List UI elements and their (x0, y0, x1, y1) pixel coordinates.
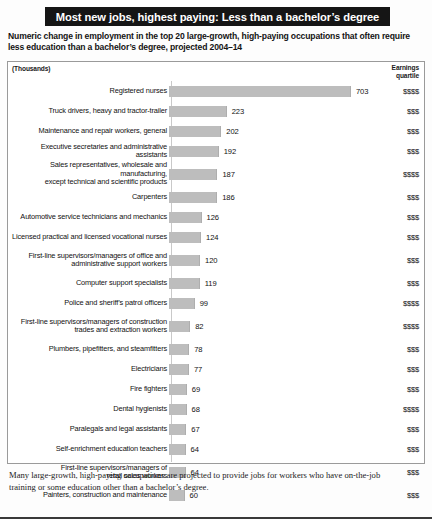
bar-row: Dental hygienists68$$$$ (8, 399, 424, 419)
bar-row: Automotive service technicians and mecha… (8, 207, 424, 227)
page-title: Most new jobs, highest paying: Less than… (56, 11, 379, 23)
bar (169, 321, 190, 332)
bar-row: Sales representatives, wholesale and man… (8, 161, 424, 187)
bar (169, 106, 227, 117)
bar-row: Registered nurses703$$$$ (8, 81, 424, 101)
bar-row-label: Automotive service technicians and mecha… (8, 213, 169, 221)
footnote: Many large-growth, high-paying occupatio… (9, 470, 409, 493)
bar-zone: 67$$$ (169, 419, 424, 439)
bar-row-label: Plumbers, pipefitters, and steamfitters (8, 345, 169, 353)
earnings-quartile-value: $$$ (407, 365, 419, 374)
bar-value-label: 126 (207, 213, 219, 222)
bar-zone: 126$$$ (169, 207, 424, 227)
bar-row-label: Sales representatives, wholesale and man… (8, 161, 169, 186)
bar-zone: 186$$$ (169, 187, 424, 207)
bar-row-label: Police and sheriff’s patrol officers (8, 299, 169, 307)
bar-row-label: First-line supervisors/managers of const… (8, 318, 169, 335)
chart-page: Most new jobs, highest paying: Less than… (0, 0, 432, 519)
earnings-header-line2: quartile (392, 72, 419, 80)
bar-row: Plumbers, pipefitters, and steamfitters7… (8, 339, 424, 359)
bar-row-label: Fire fighters (8, 385, 169, 393)
earnings-quartile-value: $$$ (407, 385, 419, 394)
bar-row: Executive secretaries and administrative… (8, 141, 424, 161)
earnings-quartile-header: Earnings quartile (392, 64, 419, 80)
bar-row-label: Electricians (8, 365, 169, 373)
bar-zone: 119$$$ (169, 273, 424, 293)
bar (169, 364, 189, 375)
bar-row-label: Maintenance and repair workers, general (8, 127, 169, 135)
bar (169, 424, 186, 435)
bar-row: Truck drivers, heavy and tractor-trailer… (8, 101, 424, 121)
bar-value-label: 99 (200, 299, 208, 308)
bar-zone: 64$$$ (169, 439, 424, 459)
chart-panel: (Thousands) Earnings quartile Registered… (7, 61, 425, 464)
bar-value-label: 124 (206, 233, 218, 242)
bar-zone: 77$$$ (169, 359, 424, 379)
bar-row-label: First-line supervisors/managers of offic… (8, 252, 169, 269)
bar-zone: 192$$$ (169, 141, 424, 161)
earnings-quartile-value: $$$ (407, 193, 419, 202)
bar-zone: 68$$$$ (169, 399, 424, 419)
bar-value-label: 186 (222, 193, 234, 202)
bar (169, 344, 189, 355)
units-label: (Thousands) (12, 65, 50, 72)
bar-row-label: Licensed practical and licensed vocation… (8, 233, 169, 241)
earnings-quartile-value: $$$$ (403, 405, 419, 414)
bar-value-label: 192 (224, 147, 236, 156)
bar (169, 232, 201, 243)
bar-value-label: 202 (226, 127, 238, 136)
bar-rows-container: Registered nurses703$$$$Truck drivers, h… (8, 81, 424, 505)
earnings-quartile-value: $$$$ (403, 322, 419, 331)
bar-value-label: 69 (192, 385, 200, 394)
bar-value-label: 82 (195, 322, 203, 331)
bar (169, 212, 202, 223)
bar-row-label: Truck drivers, heavy and tractor-trailer (8, 107, 169, 115)
bar-zone: 202$$$ (169, 121, 424, 141)
bar-row: Computer support specialists119$$$ (8, 273, 424, 293)
bar-zone: 99$$$$ (169, 293, 424, 313)
earnings-quartile-value: $$$ (407, 107, 419, 116)
bar (169, 444, 186, 455)
earnings-quartile-value: $$$ (407, 127, 419, 136)
bar (169, 86, 351, 97)
bar-value-label: 119 (205, 279, 217, 288)
bar-value-label: 78 (194, 345, 202, 354)
bar (169, 126, 221, 137)
bar (169, 255, 200, 266)
bar-zone: 69$$$ (169, 379, 424, 399)
earnings-quartile-value: $$$ (407, 233, 419, 242)
earnings-quartile-value: $$$ (407, 279, 419, 288)
bar-row-label: Executive secretaries and administrative… (8, 143, 169, 160)
bar (169, 384, 187, 395)
bar-value-label: 67 (191, 425, 199, 434)
bar-row: Self-enrichment education teachers64$$$ (8, 439, 424, 459)
bar-row-label: Self-enrichment education teachers (8, 445, 169, 453)
bar-row: Carpenters186$$$ (8, 187, 424, 207)
bar-row: Fire fighters69$$$ (8, 379, 424, 399)
bar-zone: 120$$$ (169, 247, 424, 273)
bar (169, 404, 187, 415)
bar (169, 278, 200, 289)
bar-row: Licensed practical and licensed vocation… (8, 227, 424, 247)
bar (169, 192, 217, 203)
bar-zone: 124$$$ (169, 227, 424, 247)
bar (169, 169, 217, 180)
bar-row: Paralegals and legal assistants67$$$ (8, 419, 424, 439)
bar-row: Police and sheriff’s patrol officers99$$… (8, 293, 424, 313)
earnings-quartile-value: $$$ (407, 256, 419, 265)
bar-row: First-line supervisors/managers of offic… (8, 247, 424, 273)
chart-title-banner: Most new jobs, highest paying: Less than… (45, 7, 390, 26)
bar-value-label: 120 (205, 256, 217, 265)
bar (169, 298, 195, 309)
bar-value-label: 223 (232, 107, 244, 116)
bar-row-label: Computer support specialists (8, 279, 169, 287)
bar-value-label: 64 (191, 445, 199, 454)
earnings-quartile-value: $$$ (407, 425, 419, 434)
bar-row: First-line supervisors/managers of const… (8, 313, 424, 339)
bar-value-label: 187 (222, 170, 234, 179)
bar-row: Electricians77$$$ (8, 359, 424, 379)
bar-zone: 223$$$ (169, 101, 424, 121)
bar-row-label: Carpenters (8, 193, 169, 201)
earnings-header-line1: Earnings (392, 64, 419, 72)
bar-zone: 187$$$$ (169, 161, 424, 187)
